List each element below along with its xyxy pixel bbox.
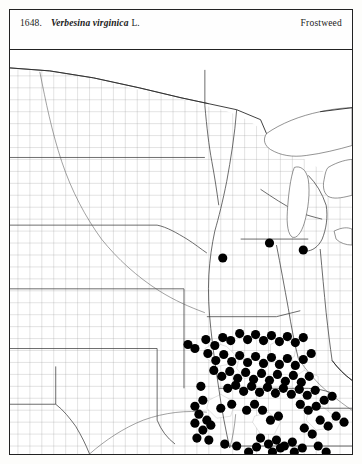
county-record-dot [227,357,236,366]
county-record-dot [290,447,299,454]
county-record-dot [275,360,284,369]
county-record-dot [204,435,213,444]
county-record-dot [311,386,320,395]
county-record-dot [225,367,234,376]
county-record-dot [252,442,261,451]
county-record-dot [232,441,241,450]
county-record-dot [203,349,212,358]
county-record-dot [332,412,341,421]
county-record-dot [276,443,285,452]
county-record-dot [304,406,313,415]
species-header: 1648. Verbesina virginica L. Frostweed [9,9,353,49]
scientific-name: Verbesina virginica [51,18,129,28]
county-record-dot [299,355,308,364]
county-record-dot [218,333,227,342]
county-record-dot [217,372,226,381]
county-record-dot [298,443,307,452]
taxon-authority: L. [132,18,140,28]
county-record-dot [251,352,260,361]
county-record-dot [267,331,276,340]
county-record-dot [322,447,331,454]
county-record-dot [308,430,317,439]
county-record-dot [283,332,292,341]
county-record-dot [206,421,215,430]
county-record-dot [209,366,218,375]
county-record-dot [226,336,235,345]
county-record-dot [244,447,253,454]
county-record-dot [190,419,199,428]
county-record-dot [266,416,275,425]
county-record-dot [259,359,268,368]
county-record-dot [220,439,229,448]
county-record-dot [324,422,333,431]
county-record-dot [299,245,308,254]
county-record-dot [218,253,227,262]
county-record-dot [274,412,283,421]
county-record-dot [272,435,281,444]
county-record-dot [219,350,228,359]
county-record-dot [339,418,348,427]
county-record-dot [247,382,256,391]
common-name: Frostweed [301,18,342,28]
distribution-map [9,49,353,455]
county-record-dot [223,384,232,393]
county-record-dot [242,406,251,415]
county-record-dot [328,392,337,401]
county-record-dot [210,341,219,350]
county-record-dot [312,402,321,411]
county-record-dot [183,340,192,349]
county-record-dot [198,426,207,435]
county-record-dot [211,356,220,365]
county-record-dot [283,354,292,363]
entry-number: 1648. [20,18,42,28]
county-record-dot [241,368,250,377]
county-record-dot [216,404,225,413]
county-record-dot [235,351,244,360]
county-record-dot [265,238,274,247]
county-record-dot [196,382,205,391]
county-record-dot [255,388,264,397]
county-record-dot [291,338,300,347]
county-record-dot [287,390,296,399]
county-record-dot [300,424,309,433]
county-record-dot [227,400,236,409]
county-record-dot [267,353,276,362]
county-record-dot [235,329,244,338]
county-record-dot [273,370,282,379]
county-record-dot [259,336,268,345]
county-record-dot [198,396,207,405]
county-record-dot [279,384,288,393]
county-record-dot [295,385,304,394]
county-record-dot [307,349,316,358]
county-record-dot [201,335,210,344]
map-layers [10,50,352,454]
county-record-dot [250,400,259,409]
county-record-dot [275,337,284,346]
county-record-dot [256,434,265,443]
county-record-dot [231,381,240,390]
county-record-dot [289,371,298,380]
county-record-dot [243,335,252,344]
county-record-dot [314,441,323,450]
county-record-dot [258,406,267,415]
county-record-dot [239,387,248,396]
great-lakes [264,108,352,245]
county-record-dot [299,333,308,342]
county-record-dot [263,383,272,392]
header-row: 1648. Verbesina virginica L. Frostweed [10,18,352,28]
county-record-dot [257,369,266,378]
county-record-dot [192,434,201,443]
map-canvas [10,50,352,454]
atlas-page: 1648. Verbesina virginica L. Frostweed [0,0,362,464]
county-record-dot [303,391,312,400]
county-record-dot [190,402,199,411]
county-record-dot [271,389,280,398]
county-record-dot [291,361,300,370]
county-record-dot [316,416,325,425]
county-record-dot [243,358,252,367]
county-record-dot [320,396,329,405]
county-record-dot [251,330,260,339]
county-record-dot [288,437,297,446]
county-record-dot [296,400,305,409]
county-record-dot [264,439,273,448]
